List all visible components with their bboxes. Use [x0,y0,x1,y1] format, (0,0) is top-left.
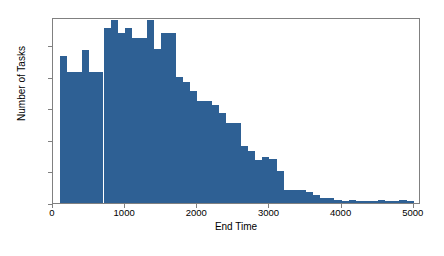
histogram-bar [291,190,298,203]
histogram-bar [132,38,139,204]
x-tick-label: 0 [27,208,77,218]
histogram-bar [226,123,233,203]
x-tick-label: 1000 [99,208,149,218]
histogram-bar [125,28,132,203]
y-tick-mark [48,78,52,79]
y-tick-mark [48,172,52,173]
x-tick-label: 5000 [388,208,438,218]
histogram-bar [262,157,269,203]
histogram-bar [190,91,197,203]
histogram-bar [89,72,96,203]
histogram-bar [67,72,74,203]
histogram-bar [212,105,219,203]
x-tick-label: 3000 [243,208,293,218]
histogram-bar [298,190,305,203]
histogram-bar [342,201,349,203]
histogram-bar [104,28,111,203]
histogram-bar [75,72,82,203]
histogram-figure: Number of Tasks 020406080100 01000200030… [0,0,444,256]
histogram-bar [176,77,183,203]
histogram-bar [248,151,255,203]
histogram-bar [219,113,226,203]
histogram-bar [183,82,190,203]
histogram-bar [392,201,399,203]
histogram-bar [385,201,392,203]
histogram-bar [277,171,284,203]
histogram-bar [327,198,334,203]
histogram-bar [147,20,154,203]
histogram-bar [233,123,240,203]
histogram-bar [96,72,103,203]
histogram-bar [118,33,125,203]
y-tick-mark [48,46,52,47]
y-tick-mark [48,141,52,142]
histogram-bar [140,38,147,204]
y-tick-mark [48,109,52,110]
histogram-bar [60,56,67,203]
histogram-bars [53,19,419,203]
histogram-bar [284,190,291,203]
histogram-bar [197,101,204,203]
histogram-bar [356,201,363,203]
histogram-bar [205,101,212,203]
histogram-bar [378,200,385,203]
x-axis-label: End Time [52,221,420,232]
histogram-bar [349,200,356,203]
histogram-bar [269,159,276,203]
histogram-bar [407,201,414,203]
x-tick-label: 2000 [171,208,221,218]
histogram-bar [241,146,248,203]
y-axis-label: Number of Tasks [16,14,27,154]
histogram-bar [313,195,320,203]
histogram-bar [161,33,168,203]
histogram-bar [370,201,377,203]
histogram-bar [399,200,406,203]
histogram-bar [363,201,370,203]
histogram-bar [255,160,262,203]
histogram-bar [306,192,313,203]
plot-area [52,18,420,204]
x-tick-label: 4000 [316,208,366,218]
histogram-bar [334,200,341,203]
histogram-bar [320,198,327,203]
histogram-bar [82,50,89,203]
histogram-bar [154,49,161,203]
histogram-bar [168,33,175,203]
histogram-bar [111,20,118,203]
